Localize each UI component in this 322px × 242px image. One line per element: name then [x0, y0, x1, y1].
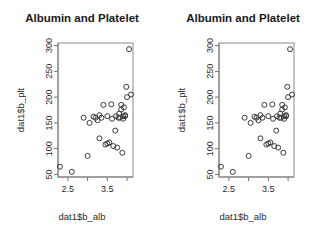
data-points-group [57, 47, 133, 175]
y-axis-ticks: 50100150200250300 [44, 38, 58, 179]
scatter-panel-left: Albumin and Platelet dat1$b_alb dat1$b_p… [0, 0, 161, 242]
data-point [113, 128, 118, 133]
y-tick-label: 300 [205, 38, 215, 53]
data-point [87, 120, 92, 125]
data-point [101, 102, 106, 107]
y-tick-label: 250 [205, 64, 215, 79]
data-point [246, 153, 251, 158]
scatter-plot-svg-right: Albumin and Platelet dat1$b_alb dat1$b_p… [161, 0, 322, 242]
data-point [85, 153, 90, 158]
y-tick-label: 50 [44, 169, 54, 179]
y-tick-label: 300 [44, 38, 54, 53]
x-axis-title: dat1$b_alb [219, 211, 266, 222]
plot-frame [58, 43, 133, 177]
data-point [120, 150, 125, 155]
data-point [230, 169, 235, 174]
x-axis-ticks: 2.53.5 [62, 177, 127, 194]
data-point [109, 102, 114, 107]
figure-canvas: Albumin and Platelet dat1$b_alb dat1$b_p… [0, 0, 322, 242]
data-point [105, 114, 110, 119]
plot-title: Albumin and Platelet [25, 12, 139, 24]
data-point [266, 114, 271, 119]
y-tick-label: 150 [44, 115, 54, 130]
data-point [81, 115, 86, 120]
data-point [285, 84, 290, 89]
x-axis-title: dat1$b_alb [58, 211, 105, 222]
data-point [270, 102, 275, 107]
x-tick-label: 2.5 [223, 184, 236, 194]
y-tick-label: 250 [44, 64, 54, 79]
y-tick-label: 100 [44, 141, 54, 156]
y-axis-ticks: 50100150200250300 [205, 38, 219, 179]
data-point [262, 102, 267, 107]
x-tick-label: 2.5 [62, 184, 75, 194]
data-points-group [218, 47, 294, 175]
x-tick-label: 3.5 [262, 184, 275, 194]
data-point [97, 136, 102, 141]
data-point [281, 150, 286, 155]
plot-title: Albumin and Platelet [186, 12, 300, 24]
data-point [242, 115, 247, 120]
data-point [124, 84, 129, 89]
scatter-plot-svg-left: Albumin and Platelet dat1$b_alb dat1$b_p… [0, 0, 161, 242]
y-axis-title: dat1$b_plt [176, 87, 187, 132]
y-tick-label: 150 [205, 115, 215, 130]
data-point [127, 47, 132, 52]
data-point [274, 128, 279, 133]
y-tick-label: 200 [44, 90, 54, 105]
data-point [288, 47, 293, 52]
plot-frame [219, 43, 294, 177]
x-tick-label: 3.5 [101, 184, 114, 194]
scatter-panel-right: Albumin and Platelet dat1$b_alb dat1$b_p… [161, 0, 322, 242]
x-axis-ticks: 2.53.5 [223, 177, 288, 194]
data-point [258, 136, 263, 141]
y-tick-label: 200 [205, 90, 215, 105]
data-point [248, 120, 253, 125]
y-tick-label: 100 [205, 141, 215, 156]
y-tick-label: 50 [205, 169, 215, 179]
data-point [69, 169, 74, 174]
y-axis-title: dat1$b_plt [15, 87, 26, 132]
